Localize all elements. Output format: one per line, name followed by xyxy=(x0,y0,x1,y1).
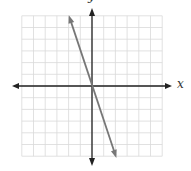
coordinate-plane xyxy=(0,0,191,171)
x-axis-left-arrow-icon xyxy=(12,83,19,89)
y-axis-bottom-arrow-icon xyxy=(89,158,95,166)
x-axis-label: x xyxy=(177,77,184,91)
line-top-arrow-icon xyxy=(69,15,75,24)
y-axis-label: y xyxy=(88,0,95,3)
y-axis-top-arrow-icon xyxy=(89,8,95,16)
x-axis-right-arrow-icon xyxy=(165,83,172,89)
